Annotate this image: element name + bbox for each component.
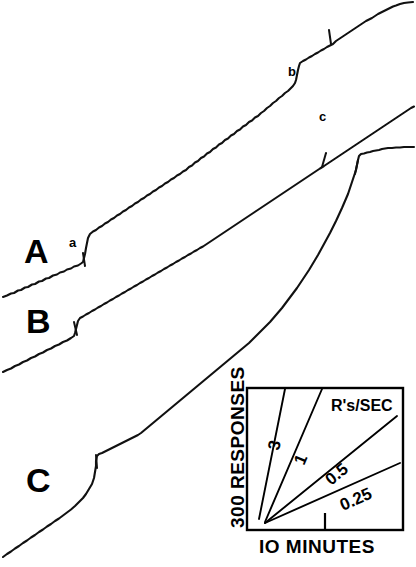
event-label-c: c: [319, 109, 326, 124]
inset-rate-label-0-5: 0.5: [322, 459, 352, 489]
curve-a: [3, 2, 413, 297]
event-tick-b-upper: [329, 30, 331, 44]
curve-b: [3, 107, 414, 373]
inset-legend: 3 1 0.5 0.25 R's/SEC 300 RESPONSES IO MI…: [227, 366, 403, 557]
curve-label-a: A: [24, 232, 49, 270]
inset-x-axis-label: IO MINUTES: [259, 536, 375, 557]
figure-canvas: A B C a b c 3 1 0.5 0.25 R's/SEC 300 RES…: [0, 0, 416, 567]
event-label-a: a: [69, 235, 77, 250]
inset-y-axis-label: 300 RESPONSES: [227, 366, 248, 528]
inset-rate-line-3: [259, 389, 285, 519]
inset-rate-label-1: 1: [290, 451, 311, 467]
event-label-b: b: [288, 64, 296, 79]
cumulative-response-figure: A B C a b c 3 1 0.5 0.25 R's/SEC 300 RES…: [0, 0, 416, 567]
inset-title: R's/SEC: [331, 397, 393, 414]
curve-label-c: C: [26, 461, 51, 499]
curve-label-b: B: [26, 302, 51, 340]
event-tick-curve-c-left: [96, 455, 97, 468]
inset-rate-label-3: 3: [264, 439, 285, 452]
